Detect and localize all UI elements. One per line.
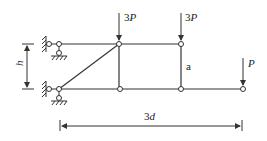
diagonal-member: [59, 44, 119, 89]
load-label-top-middle: 3P: [124, 11, 137, 23]
joints: [57, 42, 246, 92]
member-label-a: a: [186, 60, 191, 72]
load-label-top-right: 3P: [185, 11, 198, 23]
top-left-support: [42, 36, 67, 60]
truss-members: [59, 44, 243, 89]
span-label: 3d: [144, 110, 156, 122]
bottom-left-support: [42, 81, 67, 105]
truss-diagram: 3P 3P P a h 3d: [0, 0, 267, 141]
load-label-bottom-right: P: [247, 57, 255, 69]
height-label: h: [13, 60, 25, 66]
